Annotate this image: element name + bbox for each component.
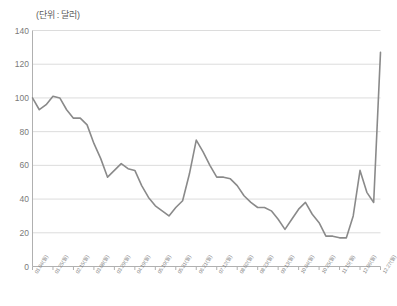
footer-strip	[0, 297, 390, 306]
x-tick-label: 08.23(월)	[259, 254, 274, 274]
x-tick-label: 12.27(월)	[382, 254, 397, 274]
x-tick-label: 07.12(월)	[218, 254, 233, 274]
x-tick-label: 02.15(월)	[75, 254, 90, 274]
x-tick-label: 06.21(월)	[198, 254, 213, 274]
x-tick-label: 10.04(월)	[300, 254, 315, 274]
x-tick-label: 10.25(월)	[321, 254, 336, 274]
x-tick-label: 03.08(월)	[95, 254, 110, 274]
x-tick-label: 03.29(월)	[116, 254, 131, 274]
x-tick-label: 05.31(월)	[177, 254, 192, 274]
x-tick-label: 01.25(월)	[54, 254, 69, 274]
x-tick-label: 04.19(월)	[136, 254, 151, 274]
x-tick-label: 11.15(월)	[341, 254, 356, 274]
x-tick-label: 09.13(월)	[280, 254, 295, 274]
x-tick-label: 05.10(월)	[157, 254, 172, 274]
x-tick-label: 12.06(월)	[362, 254, 377, 274]
x-tick-label: 01.04(월)	[34, 254, 49, 274]
x-tick-label: 08.02(월)	[239, 254, 254, 274]
